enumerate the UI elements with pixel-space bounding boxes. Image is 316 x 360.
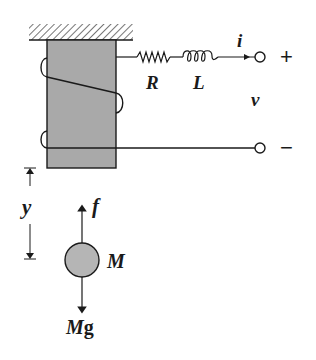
coil-loop-top-left: [41, 58, 47, 77]
coil-loop-right: [116, 93, 123, 113]
plus-sign: +: [280, 44, 293, 69]
gravity-force-label: Mg: [65, 316, 94, 339]
voltage-label: v: [251, 89, 260, 110]
mass-label: M: [106, 250, 126, 272]
support-hatch: [29, 24, 133, 40]
current-arrow-icon: [244, 54, 250, 60]
gravity-label-g: g: [84, 316, 94, 339]
inductor-coils: [183, 51, 218, 62]
fixed-support: [29, 24, 133, 40]
coil-loop-bottom-left: [41, 131, 47, 148]
force-label: f: [92, 194, 101, 218]
terminal-minus: [255, 143, 265, 153]
mass-ball: [65, 243, 99, 277]
minus-sign: −: [280, 135, 293, 160]
current-label: i: [237, 30, 243, 51]
terminal-plus: [255, 52, 265, 62]
electromagnet-levitation-diagram: R L i v + − y f M Mg: [0, 0, 316, 360]
magnet-core: [47, 40, 116, 168]
gravity-label-mass: M: [65, 316, 85, 338]
displacement-label: y: [19, 195, 32, 219]
resistor-zigzag: [137, 52, 170, 62]
top-circuit-branch: [116, 51, 256, 62]
inductor-label: L: [192, 72, 205, 93]
resistor-label: R: [145, 72, 159, 93]
